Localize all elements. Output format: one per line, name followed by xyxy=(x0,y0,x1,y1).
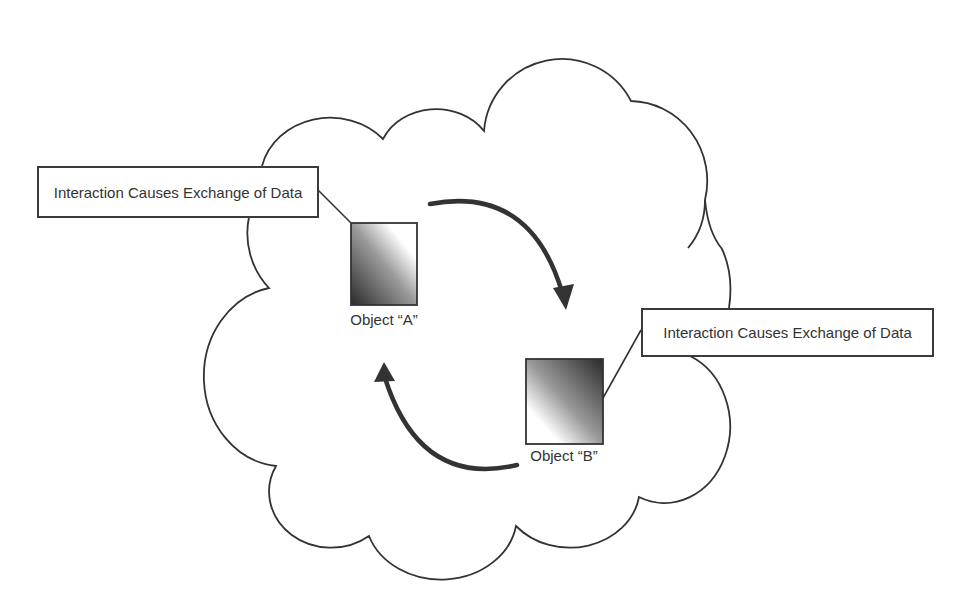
arrow-a-to-b-head xyxy=(553,284,574,310)
arrow-a-to-b xyxy=(430,201,562,292)
callout-box-b: Interaction Causes Exchange of Data xyxy=(641,308,934,357)
object-b-square xyxy=(526,359,603,444)
arrow-b-to-a-head xyxy=(374,362,395,382)
callout-box-a: Interaction Causes Exchange of Data xyxy=(37,166,319,218)
cloud-outline-right-lobe xyxy=(705,200,730,308)
diagram-canvas xyxy=(0,0,971,613)
leader-line-a xyxy=(318,190,351,223)
leader-line-b xyxy=(603,330,641,398)
callout-label-b: Interaction Causes Exchange of Data xyxy=(663,324,911,341)
object-a-label: Object “A” xyxy=(324,311,444,328)
object-a-square xyxy=(351,223,417,305)
arrow-b-to-a xyxy=(385,378,517,469)
callout-label-a: Interaction Causes Exchange of Data xyxy=(54,184,302,201)
object-b-label: Object “B” xyxy=(504,447,624,464)
